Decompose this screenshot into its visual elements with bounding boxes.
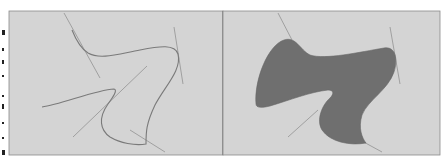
filled-panel	[223, 11, 440, 155]
bezier-figure	[0, 0, 448, 165]
outline-panel	[9, 11, 223, 155]
outline-panel-background	[9, 11, 223, 155]
